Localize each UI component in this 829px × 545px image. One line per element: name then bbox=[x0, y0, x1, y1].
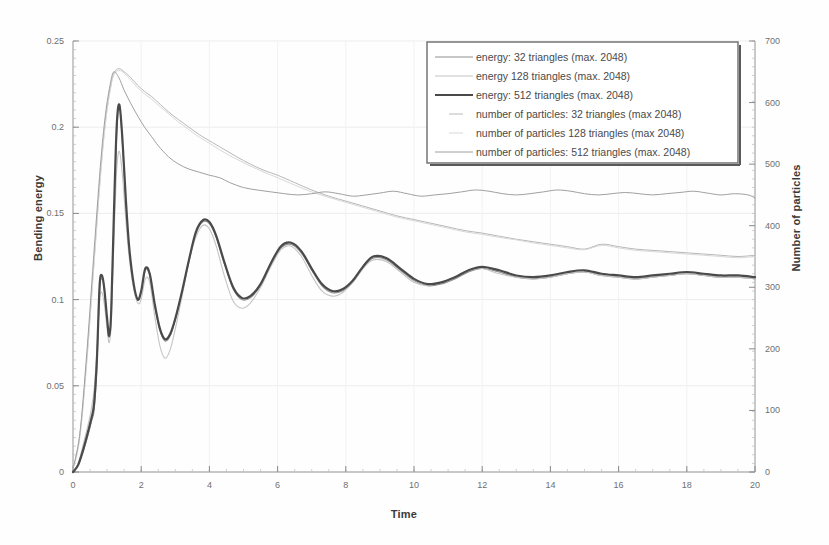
svg-text:300: 300 bbox=[765, 282, 780, 292]
svg-text:0: 0 bbox=[70, 480, 75, 490]
svg-text:0.2: 0.2 bbox=[51, 122, 64, 132]
svg-text:8: 8 bbox=[343, 480, 348, 490]
svg-text:4: 4 bbox=[207, 480, 212, 490]
legend-label-2: energy: 512 triangles (max. 2048) bbox=[476, 89, 633, 101]
y-axis-left-title: Bending energy bbox=[32, 158, 44, 278]
svg-text:14: 14 bbox=[545, 480, 555, 490]
svg-text:2: 2 bbox=[139, 480, 144, 490]
legend-box: energy: 32 triangles (max. 2048)energy 1… bbox=[427, 42, 740, 165]
svg-text:10: 10 bbox=[409, 480, 419, 490]
svg-text:600: 600 bbox=[765, 98, 780, 108]
svg-text:20: 20 bbox=[750, 480, 760, 490]
svg-text:6: 6 bbox=[275, 480, 280, 490]
svg-text:400: 400 bbox=[765, 221, 780, 231]
legend-label-4: number of particles 128 triangles (max 2… bbox=[476, 127, 684, 139]
svg-text:0: 0 bbox=[765, 467, 770, 477]
svg-text:16: 16 bbox=[614, 480, 624, 490]
svg-text:0.1: 0.1 bbox=[51, 295, 64, 305]
svg-text:500: 500 bbox=[765, 159, 780, 169]
y-axis-right-title: Number of particles bbox=[790, 153, 802, 283]
svg-text:18: 18 bbox=[682, 480, 692, 490]
legend-label-0: energy: 32 triangles (max. 2048) bbox=[476, 51, 627, 63]
svg-text:12: 12 bbox=[477, 480, 487, 490]
chart-canvas: 00.050.10.150.20.25010020030040050060070… bbox=[0, 0, 829, 545]
svg-text:0.15: 0.15 bbox=[46, 208, 64, 218]
svg-text:100: 100 bbox=[765, 405, 780, 415]
svg-text:0.05: 0.05 bbox=[46, 381, 64, 391]
svg-text:200: 200 bbox=[765, 344, 780, 354]
legend-label-5: number of particles: 512 triangles (max.… bbox=[476, 146, 690, 158]
x-axis-title: Time bbox=[334, 508, 474, 520]
chart-figure: 00.050.10.150.20.25010020030040050060070… bbox=[0, 0, 829, 545]
legend-label-1: energy 128 triangles (max. 2048) bbox=[476, 70, 630, 82]
svg-text:0.25: 0.25 bbox=[46, 36, 64, 46]
svg-text:0: 0 bbox=[59, 467, 64, 477]
svg-text:700: 700 bbox=[765, 36, 780, 46]
legend-label-3: number of particles: 32 triangles (max 2… bbox=[476, 108, 681, 120]
